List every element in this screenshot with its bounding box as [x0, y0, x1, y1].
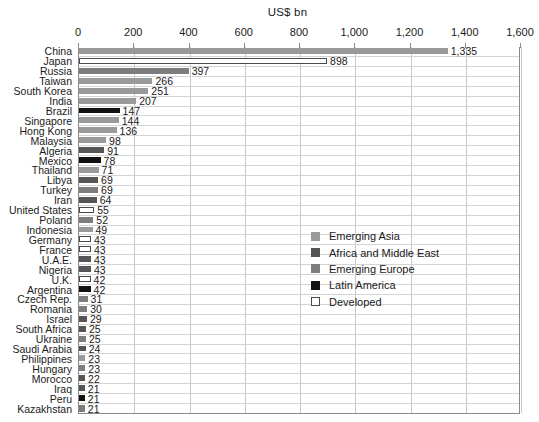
bar-row: 21	[79, 394, 519, 404]
legend-label: Developed	[329, 296, 382, 308]
bar-india[interactable]	[79, 98, 136, 104]
bar-row: 69	[79, 186, 519, 196]
bar-algeria[interactable]	[79, 147, 104, 153]
bar-singapore[interactable]	[79, 117, 119, 123]
bar-south-africa[interactable]	[79, 326, 86, 332]
bar-row: 29	[79, 315, 519, 325]
bar-row: 266	[79, 77, 519, 87]
bar-row: 397	[79, 67, 519, 77]
bar-row: 1,335	[79, 47, 519, 57]
x-tick-label: 1,200	[396, 26, 424, 38]
bar-value-label: 898	[327, 55, 348, 67]
bar-u-k[interactable]	[79, 276, 91, 282]
x-tick-label: 0	[75, 26, 81, 38]
bar-thailand[interactable]	[79, 167, 99, 173]
bar-row: 55	[79, 206, 519, 216]
bar-south-korea[interactable]	[79, 88, 148, 94]
bar-row: 898	[79, 57, 519, 67]
gridline	[521, 47, 522, 413]
legend-swatch	[311, 281, 320, 290]
bar-row: 25	[79, 335, 519, 345]
bar-mexico[interactable]	[79, 157, 101, 163]
bar-poland[interactable]	[79, 217, 93, 223]
bar-indonesia[interactable]	[79, 227, 93, 233]
legend-swatch	[311, 248, 320, 257]
bar-taiwan[interactable]	[79, 78, 152, 84]
x-tick-label: 400	[179, 26, 197, 38]
bar-row: 25	[79, 325, 519, 335]
bar-value-label: 1,335	[448, 45, 477, 57]
bar-france[interactable]	[79, 246, 91, 252]
bar-row: 23	[79, 354, 519, 364]
bar-argentina[interactable]	[79, 286, 91, 292]
bar-row: 91	[79, 146, 519, 156]
legend-label: Africa and Middle East	[329, 247, 439, 259]
legend-item[interactable]: Africa and Middle East	[311, 244, 481, 260]
x-tick-label: 800	[290, 26, 308, 38]
legend-swatch	[311, 297, 320, 306]
bar-row: 78	[79, 156, 519, 166]
legend-label: Emerging Europe	[329, 263, 415, 275]
bar-ukraine[interactable]	[79, 336, 86, 342]
bar-japan[interactable]	[79, 58, 327, 64]
bar-row: 22	[79, 374, 519, 384]
legend-item[interactable]: Developed	[311, 294, 481, 310]
bar-czech-rep[interactable]	[79, 296, 88, 302]
x-tick-label: 1,400	[451, 26, 479, 38]
bar-row: 144	[79, 116, 519, 126]
chart-title: US$ bn	[0, 6, 539, 18]
bar-row: 207	[79, 97, 519, 107]
bar-row: 147	[79, 107, 519, 117]
bar-row: 71	[79, 166, 519, 176]
bar-israel[interactable]	[79, 316, 87, 322]
bar-brazil[interactable]	[79, 108, 120, 114]
x-tick-label: 600	[235, 26, 253, 38]
legend-label: Emerging Asia	[329, 230, 400, 242]
bar-row: 24	[79, 345, 519, 355]
bar-romania[interactable]	[79, 306, 87, 312]
bar-united-states[interactable]	[79, 207, 94, 213]
legend-item[interactable]: Latin America	[311, 277, 481, 293]
bar-value-label: 21	[85, 403, 100, 415]
bar-row: 21	[79, 404, 519, 414]
chart-legend: Emerging AsiaAfrica and Middle EastEmerg…	[311, 228, 481, 310]
legend-swatch	[311, 232, 320, 241]
bar-nigeria[interactable]	[79, 266, 91, 272]
bar-row: 64	[79, 196, 519, 206]
legend-swatch	[311, 264, 320, 273]
bar-u-a-e[interactable]	[79, 256, 91, 262]
x-tick-label: 1,600	[506, 26, 534, 38]
legend-item[interactable]: Emerging Europe	[311, 261, 481, 277]
x-tick-label: 1,000	[340, 26, 368, 38]
bar-row: 98	[79, 136, 519, 146]
category-labels: ChinaJapanRussiaTaiwanSouth KoreaIndiaBr…	[0, 47, 75, 414]
bar-germany[interactable]	[79, 236, 91, 242]
bar-malaysia[interactable]	[79, 137, 106, 143]
bar-libya[interactable]	[79, 177, 98, 183]
bar-hong-kong[interactable]	[79, 127, 117, 133]
bar-row: 52	[79, 216, 519, 226]
legend-item[interactable]: Emerging Asia	[311, 228, 481, 244]
x-tick-label: 200	[124, 26, 142, 38]
bar-value-label: 397	[189, 65, 210, 77]
bar-turkey[interactable]	[79, 187, 98, 193]
bar-russia[interactable]	[79, 68, 189, 74]
x-axis-tick-labels: 02004006008001,0001,2001,4001,600	[0, 26, 539, 42]
category-label: Kazakhstan	[17, 404, 72, 415]
legend-label: Latin America	[329, 279, 396, 291]
chart-container: US$ bn 02004006008001,0001,2001,4001,600…	[0, 0, 539, 422]
bar-china[interactable]	[79, 48, 448, 54]
bar-row: 136	[79, 126, 519, 136]
chart-title-text: US$ bn	[268, 6, 308, 18]
bar-row: 69	[79, 176, 519, 186]
bar-row: 21	[79, 384, 519, 394]
bar-iran[interactable]	[79, 197, 97, 203]
bar-row: 23	[79, 364, 519, 374]
bar-saudi-arabia[interactable]	[79, 346, 86, 352]
